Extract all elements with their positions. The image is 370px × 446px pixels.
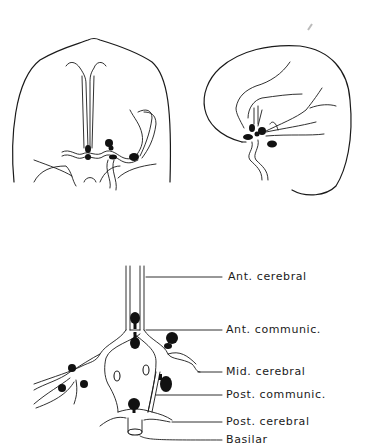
circle-of-willis-schematic xyxy=(34,266,222,440)
diagram-canvas xyxy=(0,0,370,446)
label-ant-cerebral: Ant. cerebral xyxy=(228,271,307,283)
label-basilar: Basilar xyxy=(226,434,268,446)
frontal-view xyxy=(13,39,171,191)
lateral-view xyxy=(204,24,351,195)
label-mid-cerebral: Mid. cerebral xyxy=(226,366,306,378)
label-post-communic: Post. communic. xyxy=(226,389,326,401)
label-ant-communic: Ant. communic. xyxy=(226,324,321,336)
label-post-cerebral: Post. cerebral xyxy=(226,416,310,428)
